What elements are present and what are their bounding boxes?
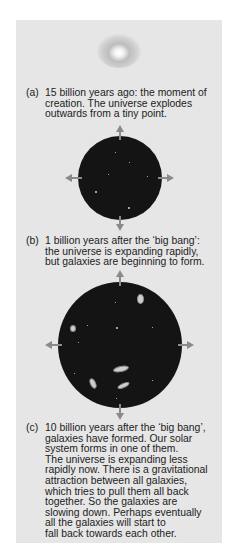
arrow-up-head-icon xyxy=(116,125,124,132)
arrow-left-head-icon xyxy=(65,174,72,182)
star-icon xyxy=(116,327,118,329)
caption-c-text: 10 billion years after the ‘big bang’, g… xyxy=(45,423,222,540)
star-icon xyxy=(152,380,153,381)
caption-a-label: (a) xyxy=(26,88,45,120)
caption-b-label: (b) xyxy=(26,236,45,268)
arrow-left-icon xyxy=(72,177,82,179)
star-icon xyxy=(128,207,130,209)
caption-a: (a) 15 billion years ago: the moment of … xyxy=(26,88,222,120)
caption-a-text: 15 billion years ago: the moment of crea… xyxy=(45,88,222,120)
galaxy-icon xyxy=(70,325,76,332)
arrow-up-icon xyxy=(119,276,121,286)
star-icon xyxy=(74,373,75,374)
star-icon xyxy=(115,302,116,303)
universe-small-disk xyxy=(78,136,162,220)
star-icon xyxy=(152,327,153,328)
big-bang-point-icon xyxy=(97,34,141,68)
caption-c: (c) 10 billion years after the ‘big bang… xyxy=(26,423,222,540)
caption-b-text: 1 billion years after the ‘big bang’: th… xyxy=(45,236,222,268)
caption-b: (b) 1 billion years after the ‘big bang’… xyxy=(26,236,222,268)
arrow-down-head-icon xyxy=(116,413,124,420)
galaxy-icon xyxy=(137,294,144,304)
star-icon xyxy=(147,176,148,177)
star-icon xyxy=(115,152,116,153)
caption-c-label: (c) xyxy=(26,423,45,540)
arrow-left-head-icon xyxy=(45,341,52,349)
arrow-down-head-icon xyxy=(116,224,124,231)
arrow-right-head-icon xyxy=(187,341,194,349)
arrow-up-icon xyxy=(119,131,121,140)
star-icon xyxy=(95,191,97,193)
star-icon xyxy=(87,325,88,326)
arrow-left-icon xyxy=(52,344,62,346)
star-icon xyxy=(129,162,130,163)
star-icon xyxy=(108,174,109,175)
star-icon xyxy=(116,398,117,399)
star-icon xyxy=(78,342,79,343)
arrow-right-head-icon xyxy=(167,174,174,182)
arrow-up-head-icon xyxy=(116,270,124,277)
